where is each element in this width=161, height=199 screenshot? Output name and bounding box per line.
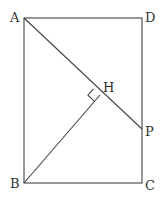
rectangle-abcd (24, 18, 142, 183)
label-h: H (103, 80, 114, 95)
label-d: D (145, 10, 155, 25)
geometry-diagram: A D B C H P (0, 0, 161, 199)
label-b: B (10, 176, 20, 191)
right-angle-mark (88, 89, 95, 102)
label-a: A (9, 10, 20, 25)
label-p: P (145, 124, 154, 139)
label-c: C (145, 178, 155, 193)
segment-ap (24, 18, 142, 129)
segment-bh (24, 95, 100, 183)
